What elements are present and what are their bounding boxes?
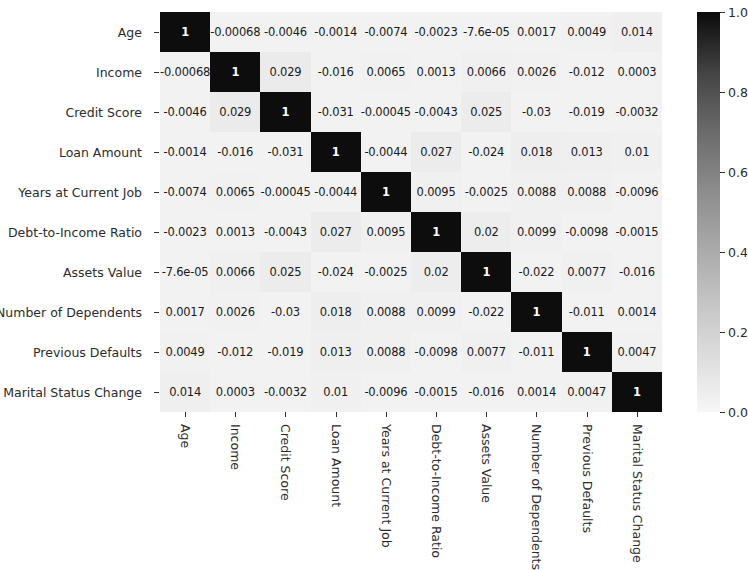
x-axis-label: Loan Amount bbox=[328, 424, 343, 507]
x-axis-label-slot: Loan Amount bbox=[311, 420, 361, 568]
colorbar-tick-mark bbox=[720, 92, 725, 93]
heatmap-cell: 1 bbox=[612, 372, 662, 412]
x-tick-mark bbox=[260, 412, 310, 419]
y-axis-label: Previous Defaults bbox=[0, 332, 152, 372]
heatmap-cell: 0.0014 bbox=[612, 292, 662, 332]
y-tick-mark bbox=[152, 292, 159, 332]
heatmap-cell: -0.016 bbox=[461, 372, 511, 412]
heatmap-cell: 0.0065 bbox=[361, 52, 411, 92]
heatmap-cell: -0.012 bbox=[210, 332, 260, 372]
y-tick-mark bbox=[152, 372, 159, 412]
heatmap-cell: -0.0025 bbox=[361, 252, 411, 292]
y-axis-label: Years at Current Job bbox=[0, 172, 152, 212]
heatmap-cell: -0.0098 bbox=[562, 212, 612, 252]
heatmap-cell: -0.00068 bbox=[160, 52, 210, 92]
x-axis-label: Previous Defaults bbox=[579, 424, 594, 533]
heatmap-cell: 0.029 bbox=[260, 52, 310, 92]
heatmap-cell: -0.0023 bbox=[160, 212, 210, 252]
heatmap-cell: -0.0015 bbox=[612, 212, 662, 252]
heatmap-cell: 0.0049 bbox=[160, 332, 210, 372]
heatmap-cell: 1 bbox=[411, 212, 461, 252]
heatmap-cell: 0.0065 bbox=[210, 172, 260, 212]
x-axis-label: Age bbox=[178, 424, 193, 448]
x-tick-mark bbox=[461, 412, 511, 419]
colorbar-tick-label: 0.0 bbox=[728, 405, 748, 420]
heatmap-cell: 0.01 bbox=[612, 132, 662, 172]
y-axis-label: Number of Dependents bbox=[0, 292, 152, 332]
heatmap-cell: -0.019 bbox=[562, 92, 612, 132]
y-tick-mark bbox=[152, 52, 159, 92]
heatmap-cell: 0.029 bbox=[210, 92, 260, 132]
heatmap-cell: 0.02 bbox=[461, 212, 511, 252]
x-tick-mark bbox=[562, 412, 612, 419]
x-tick-mark bbox=[511, 412, 561, 419]
heatmap-cell: 0.0077 bbox=[562, 252, 612, 292]
heatmap-cell: -0.0023 bbox=[411, 12, 461, 52]
heatmap-cell: 0.0017 bbox=[511, 12, 561, 52]
heatmap-cell: 1 bbox=[361, 172, 411, 212]
heatmap-cell: 0.0088 bbox=[361, 292, 411, 332]
y-tick-mark bbox=[152, 252, 159, 292]
x-tick-mark bbox=[612, 412, 662, 419]
x-axis-label: Credit Score bbox=[278, 424, 293, 501]
heatmap-cell: 0.013 bbox=[562, 132, 612, 172]
colorbar-tick-mark bbox=[720, 252, 725, 253]
x-axis-ticks bbox=[160, 412, 662, 419]
colorbar-tick-label: 0.4 bbox=[728, 245, 748, 260]
heatmap-cell: 0.0026 bbox=[511, 52, 561, 92]
x-axis-label: Marital Status Change bbox=[629, 424, 644, 563]
heatmap-cell: 0.014 bbox=[160, 372, 210, 412]
heatmap-cell: 0.0017 bbox=[160, 292, 210, 332]
heatmap-cell: 0.027 bbox=[411, 132, 461, 172]
x-axis-label: Income bbox=[228, 424, 243, 470]
colorbar-tick-label: 1.0 bbox=[728, 5, 748, 20]
y-axis-label: Age bbox=[0, 12, 152, 52]
heatmap-cell: 0.018 bbox=[511, 132, 561, 172]
x-tick-mark bbox=[411, 412, 461, 419]
heatmap-cell: -0.0096 bbox=[612, 172, 662, 212]
colorbar-tick-mark bbox=[720, 12, 725, 13]
y-axis-label: Loan Amount bbox=[0, 132, 152, 172]
heatmap-cell: 0.0003 bbox=[210, 372, 260, 412]
heatmap-cell: -0.0074 bbox=[361, 12, 411, 52]
heatmap-cell: 0.025 bbox=[461, 92, 511, 132]
x-axis-label-slot: Debt-to-Income Ratio bbox=[411, 420, 461, 568]
heatmap-cell: 0.0099 bbox=[511, 212, 561, 252]
heatmap-cell: -0.012 bbox=[562, 52, 612, 92]
colorbar-tick-label: 0.8 bbox=[728, 85, 748, 100]
heatmap-cell: -0.016 bbox=[612, 252, 662, 292]
x-axis-label: Debt-to-Income Ratio bbox=[429, 424, 444, 558]
heatmap-cell: -0.011 bbox=[562, 292, 612, 332]
heatmap-cell: 0.0095 bbox=[361, 212, 411, 252]
heatmap-cell: -0.016 bbox=[311, 52, 361, 92]
heatmap-cell: -0.03 bbox=[260, 292, 310, 332]
heatmap-cell: -0.022 bbox=[461, 292, 511, 332]
heatmap-cell: 0.0088 bbox=[562, 172, 612, 212]
heatmap-cell: -0.00045 bbox=[361, 92, 411, 132]
heatmap-cell: -0.0096 bbox=[361, 372, 411, 412]
x-axis-label-slot: Number of Dependents bbox=[511, 420, 561, 568]
heatmap-cell: -0.0032 bbox=[260, 372, 310, 412]
heatmap-cell: 1 bbox=[311, 132, 361, 172]
heatmap-cell: -0.0046 bbox=[160, 92, 210, 132]
heatmap-grid: 1-0.00068-0.0046-0.0014-0.0074-0.0023-7.… bbox=[160, 12, 662, 412]
heatmap-cell: -0.022 bbox=[511, 252, 561, 292]
heatmap-cell: -0.031 bbox=[311, 92, 361, 132]
heatmap-cell: -0.031 bbox=[260, 132, 310, 172]
heatmap-cell: 1 bbox=[260, 92, 310, 132]
heatmap-cell: 0.0026 bbox=[210, 292, 260, 332]
heatmap-cell: 0.018 bbox=[311, 292, 361, 332]
heatmap-cell: -0.0043 bbox=[411, 92, 461, 132]
y-tick-mark bbox=[152, 92, 159, 132]
heatmap-cell: -0.011 bbox=[511, 332, 561, 372]
heatmap-cell: 0.0049 bbox=[562, 12, 612, 52]
heatmap-cell: -7.6e-05 bbox=[160, 252, 210, 292]
heatmap-cell: 0.014 bbox=[612, 12, 662, 52]
heatmap-cell: -0.0074 bbox=[160, 172, 210, 212]
heatmap-cell: 0.0013 bbox=[411, 52, 461, 92]
y-tick-mark bbox=[152, 132, 159, 172]
heatmap-cell: -0.00045 bbox=[260, 172, 310, 212]
heatmap-cell: 0.0099 bbox=[411, 292, 461, 332]
colorbar-gradient bbox=[697, 12, 720, 412]
